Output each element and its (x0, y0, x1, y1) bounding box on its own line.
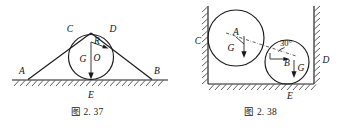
weight-arrow-A-head (241, 51, 246, 58)
floor-hatching (209, 85, 316, 91)
label-G-lower: G (298, 63, 305, 73)
label-B: B (284, 58, 290, 68)
left-wall-hatching (202, 7, 208, 84)
label-A: A (232, 27, 239, 37)
label-D: D (322, 55, 330, 65)
label-E: E (87, 90, 94, 100)
label-angle-30: 30° (280, 38, 292, 48)
label-C: C (195, 36, 202, 46)
label-G: G (80, 54, 87, 64)
label-E: E (286, 91, 293, 101)
label-G-upper: G (228, 43, 235, 53)
label-O: O (94, 53, 101, 63)
figure-2-38-caption: 图 2. 38 (174, 104, 347, 118)
weight-arrow-head (88, 73, 93, 80)
circle-A (208, 10, 264, 66)
weight-arrow-B-head (291, 71, 296, 78)
right-wall-hatching (315, 6, 321, 83)
label-A: A (18, 66, 25, 76)
figure-sheet: A B C D E O R G 图 2. 37 (0, 0, 347, 130)
figure-2-38: C D E A B G G 30° 图 2. 38 (174, 0, 347, 130)
figure-2-38-drawing: C D E A B G G 30° (174, 0, 347, 104)
ground-hatching (14, 81, 163, 87)
figure-2-37: A B C D E O R G 图 2. 37 (0, 0, 174, 130)
figure-2-37-drawing: A B C D E O R G (0, 0, 174, 104)
center-A-tie (236, 37, 244, 44)
label-D: D (109, 24, 117, 34)
figure-2-37-caption: 图 2. 37 (0, 104, 174, 118)
label-C: C (67, 24, 74, 34)
label-B: B (154, 66, 160, 76)
label-R: R (93, 36, 100, 46)
